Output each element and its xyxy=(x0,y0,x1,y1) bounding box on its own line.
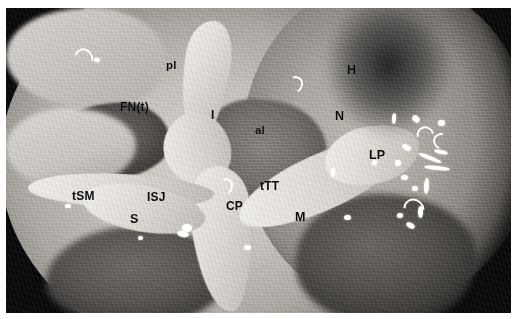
specular-highlight xyxy=(438,120,445,126)
specular-highlight xyxy=(244,245,251,250)
specular-highlight xyxy=(395,160,401,166)
anatomy-label-tSM: tSM xyxy=(72,190,95,202)
specular-highlight xyxy=(418,206,423,218)
anatomy-label-tTT: tTT xyxy=(260,180,279,192)
anatomy-label-al: al xyxy=(255,125,265,137)
endoscopic-photograph: plHFN(t)INalLPtSMISJtTTCPSM xyxy=(6,8,511,313)
specular-highlight xyxy=(344,215,351,220)
anatomy-label-CP: CP xyxy=(226,200,243,212)
anatomy-label-M: M xyxy=(295,211,306,224)
anatomy-label-H: H xyxy=(347,64,356,77)
figure-root: plHFN(t)INalLPtSMISJtTTCPSM xyxy=(0,0,517,319)
anatomy-label-pl: pl xyxy=(166,60,177,72)
anatomy-label-N: N xyxy=(335,110,344,123)
specular-highlight xyxy=(397,213,403,218)
specular-highlight xyxy=(401,175,408,180)
anatomy-label-I: I xyxy=(211,109,215,121)
anatomy-label-FNt: FN(t) xyxy=(120,101,149,113)
anatomy-label-LP: LP xyxy=(369,149,385,162)
specular-highlight xyxy=(65,204,71,208)
anatomy-label-S: S xyxy=(130,213,139,226)
specular-highlight xyxy=(138,236,143,240)
anatomy-label-ISJ: ISJ xyxy=(147,191,166,203)
specular-highlight xyxy=(412,186,418,191)
